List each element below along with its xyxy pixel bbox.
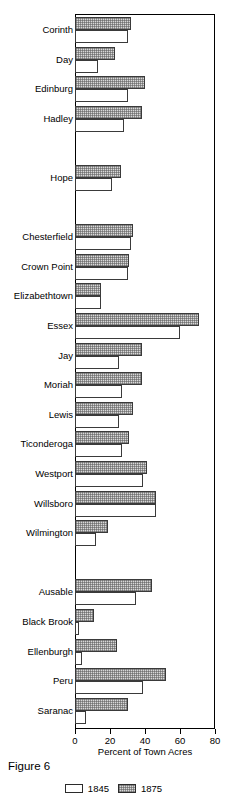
bar-group [75,491,215,517]
bar-1875 [75,224,133,237]
bar-1845 [75,533,96,546]
legend-swatch-1875 [118,784,136,793]
category-label: Hadley [0,114,73,124]
bar-1875 [75,461,147,474]
category-label: Crown Point [0,262,73,272]
bar-1845 [75,385,122,398]
bar-group [75,579,215,605]
bar-1845 [75,356,119,369]
x-axis-tick [215,729,216,734]
bar-1845 [75,504,156,517]
bar-group [75,372,215,398]
bar-group [75,520,215,546]
bar-1875 [75,609,94,622]
category-label: Essex [0,321,73,331]
bar-1845 [75,30,128,43]
bar-group [75,698,215,724]
x-axis-tick-label: 40 [140,736,151,746]
category-label: Westport [0,469,73,479]
bar-1845 [75,237,131,250]
plot-top-edge [75,14,215,15]
bar-group [75,106,215,132]
category-label: Day [0,55,73,65]
category-label: Chesterfield [0,232,73,242]
bar-group [75,165,215,191]
bar-1875 [75,579,152,592]
category-label: Edinburg [0,84,73,94]
category-label: Ausable [0,587,73,597]
category-label: Saranac [0,706,73,716]
category-label: Lewis [0,410,73,420]
category-label: Ticonderoga [0,439,73,449]
bar-1875 [75,47,115,60]
x-axis-tick [145,729,146,734]
bar-1845 [75,681,143,694]
category-label: Corinth [0,25,73,35]
category-label: Peru [0,676,73,686]
bar-1845 [75,178,112,191]
bar-1875 [75,372,142,385]
bar-1845 [75,60,98,73]
bar-1845 [75,474,143,487]
bar-group [75,609,215,635]
bar-1875 [75,402,133,415]
bar-1845 [75,711,86,724]
bar-1845 [75,652,82,665]
bar-1875 [75,165,121,178]
category-label: Elizabethtown [0,291,73,301]
x-axis-tick-label: 0 [72,736,77,746]
bar-1845 [75,267,128,280]
bar-1875 [75,283,101,296]
category-label: Jay [0,351,73,361]
x-axis-tick-label: 20 [105,736,116,746]
bar-group [75,76,215,102]
bar-group [75,17,215,43]
bar-group [75,313,215,339]
plot-area [75,14,215,729]
bar-1875 [75,313,199,326]
category-label: Wilmington [0,528,73,538]
bar-1875 [75,76,145,89]
bar-1875 [75,343,142,356]
legend-label-1845: 1845 [88,783,109,794]
bar-1845 [75,119,124,132]
bar-1875 [75,491,156,504]
bar-1875 [75,639,117,652]
bar-1875 [75,254,129,267]
bar-1875 [75,17,131,30]
bar-group [75,402,215,428]
bar-group [75,461,215,487]
category-label: Black Brook [0,617,73,627]
bar-1845 [75,296,101,309]
x-axis-label: Percent of Town Acres [75,746,215,757]
figure-caption: Figure 6 [8,760,50,773]
bar-1875 [75,698,128,711]
bar-group [75,431,215,457]
category-label: Moriah [0,380,73,390]
bar-1845 [75,444,122,457]
category-label: Hope [0,173,73,183]
category-label: Ellenburgh [0,647,73,657]
bar-1875 [75,431,129,444]
bar-1875 [75,520,108,533]
x-axis-tick [110,729,111,734]
legend-label-1875: 1875 [141,783,162,794]
bar-group [75,639,215,665]
bar-group [75,254,215,280]
x-axis-tick-label: 60 [175,736,186,746]
bar-1875 [75,106,142,119]
bar-1875 [75,668,166,681]
bar-group [75,668,215,694]
bar-1845 [75,592,136,605]
bar-group [75,343,215,369]
bar-1845 [75,415,119,428]
bar-1845 [75,89,128,102]
figure-6-chart: CorinthDayEdinburgHadleyHopeChesterfield… [0,0,231,803]
legend: 1845 1875 [0,783,231,794]
bar-1845 [75,622,79,635]
bar-group [75,224,215,250]
bar-group [75,283,215,309]
legend-swatch-1845 [65,784,83,793]
bar-1845 [75,326,180,339]
x-axis-tick [180,729,181,734]
